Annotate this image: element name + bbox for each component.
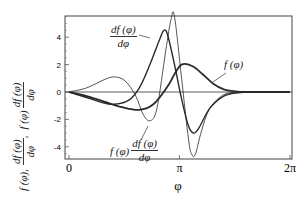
y-label-product: f (φ) bbox=[17, 110, 29, 129]
series-product-line bbox=[69, 12, 290, 157]
y-tick-label: -2 bbox=[54, 115, 62, 124]
axis-ticks: -4-20240π2π bbox=[54, 17, 296, 175]
y-tick-label: 0 bbox=[57, 88, 62, 97]
y-label-f: f (φ), bbox=[17, 169, 29, 191]
x-tick-label: π bbox=[176, 161, 182, 175]
x-tick-label: 2π bbox=[284, 161, 296, 175]
y-label-derivative: df (φ) dφ bbox=[11, 138, 36, 165]
annotation-derivative: df (φ) dφ bbox=[110, 24, 137, 49]
x-axis-label: φ bbox=[174, 178, 182, 193]
y-axis-label: f (φ), df (φ) dφ , f (φ) df (φ) dφ bbox=[5, 11, 41, 191]
y-tick-label: 4 bbox=[57, 33, 62, 42]
y-label-product-derivative: df (φ) dφ bbox=[11, 82, 36, 109]
y-tick-label: 2 bbox=[57, 61, 62, 70]
annotation-f: f (φ) bbox=[224, 58, 243, 70]
x-tick-label: 0 bbox=[66, 161, 72, 175]
series-derivative-line bbox=[69, 30, 290, 133]
series-group bbox=[69, 12, 290, 157]
y-tick-label: -4 bbox=[54, 143, 62, 152]
annotation-product: f (φ) df (φ) dφ bbox=[110, 138, 158, 163]
chart-plot: -4-20240π2π φ bbox=[0, 0, 306, 199]
